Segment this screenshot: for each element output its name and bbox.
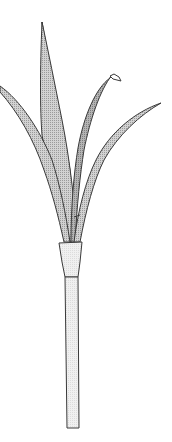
sheath — [59, 242, 82, 277]
curled-leaf-tip — [110, 74, 121, 81]
leek-illustration: Leek plant line drawing — [0, 0, 172, 442]
curled-leaf — [71, 75, 112, 242]
leek-drawing — [0, 0, 172, 442]
stem — [65, 277, 79, 428]
